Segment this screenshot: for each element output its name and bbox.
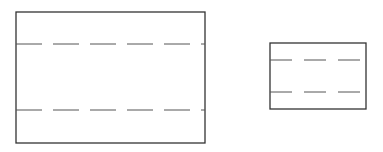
small-rectangle bbox=[270, 43, 366, 109]
large-rectangle bbox=[16, 12, 205, 143]
small-rectangle-group bbox=[270, 43, 366, 109]
large-rectangle-group bbox=[16, 12, 205, 143]
diagram-canvas bbox=[0, 0, 383, 152]
